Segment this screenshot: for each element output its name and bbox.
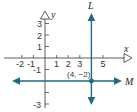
y-tick-label: 2 [37,31,42,41]
x-tick-label: 3 [77,59,82,69]
y-tick-label: 3 [37,19,42,29]
line-M-left-arrow-icon [12,77,20,85]
y-tick-label: -1 [33,65,41,75]
line-L-label: L [87,0,94,11]
y-ticks [45,24,49,105]
x-axis-label: x [123,43,129,54]
x-tick-label: 2 [66,59,71,69]
intersection-point [89,79,94,84]
line-L-down-arrow-icon [88,97,96,105]
y-tick-label: 1 [37,42,42,52]
point-label: (4, −2) [67,70,91,79]
x-tick-label: 5 [101,59,106,69]
x-tick-label: -2 [16,59,24,69]
line-L-up-arrow-icon [88,13,96,21]
line-M-right-arrow-icon [114,77,122,85]
y-axis-label: y [50,9,56,20]
y-tick-label: -3 [33,100,41,110]
coordinate-plane: x y -2 -1 1 2 3 5 3 2 1 -1 -3 L M (4, −2… [0,0,137,112]
x-axis-arrow-icon [124,54,132,63]
y-axis-arrow-icon [41,11,50,19]
x-tick-label: 1 [54,59,59,69]
line-M-label: M [124,76,134,87]
